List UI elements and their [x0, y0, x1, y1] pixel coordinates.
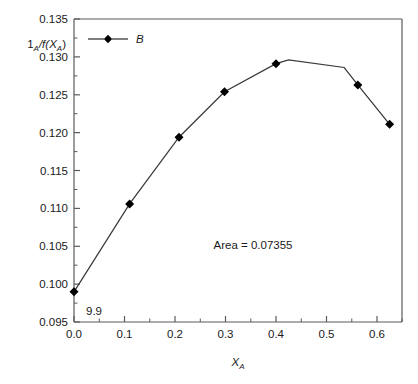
x-tick-label: 0.2	[167, 328, 183, 340]
y-tick-label: 0.120	[39, 127, 68, 139]
x-tick-label: 0.0	[66, 328, 82, 340]
chart-canvas: 0.095 0.100 0.105 0.110 0.115 0.120 0.12…	[0, 0, 418, 384]
x-tick-label: 0.3	[218, 328, 234, 340]
x-tick-label: 0.4	[268, 328, 285, 340]
x-tick-labels: 0.0 0.1 0.2 0.3 0.4 0.5 0.6	[66, 328, 385, 340]
y-tick-labels: 0.095 0.100 0.105 0.110 0.115 0.120 0.12…	[39, 13, 68, 328]
chart-figure: 0.095 0.100 0.105 0.110 0.115 0.120 0.12…	[0, 0, 418, 384]
y-tick-label: 0.125	[39, 89, 68, 101]
x-tick-label: 0.1	[117, 328, 133, 340]
y-tick-label: 0.130	[39, 51, 68, 63]
y-tick-label: 0.095	[39, 316, 68, 328]
y-tick-label: 0.110	[40, 202, 68, 214]
x-tick-label: 0.6	[369, 328, 385, 340]
y-tick-label: 0.135	[39, 13, 68, 25]
y-axis-label-mid: /f(X	[38, 38, 58, 50]
corner-annotation: 9.9	[86, 305, 102, 317]
x-axis-label-sub: A	[238, 362, 244, 371]
y-tick-label: 0.105	[39, 240, 68, 252]
x-tick-label: 0.5	[319, 328, 335, 340]
legend-label: B	[136, 33, 144, 45]
y-axis-label-end: )	[62, 38, 66, 50]
x-axis-label: XA	[230, 356, 244, 371]
y-tick-label: 0.100	[39, 278, 68, 290]
area-annotation: Area = 0.07355	[214, 239, 293, 251]
plot-background	[74, 19, 402, 322]
y-tick-label: 0.115	[40, 165, 68, 177]
